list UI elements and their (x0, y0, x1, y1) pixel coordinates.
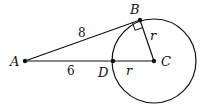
label-bc-radius: r (150, 28, 157, 43)
label-c: C (161, 54, 171, 69)
label-ab-length: 8 (78, 26, 86, 40)
label-ad-length: 6 (67, 64, 75, 78)
point-a (23, 59, 27, 63)
point-c (152, 59, 156, 63)
label-dc-radius: r (126, 63, 133, 78)
point-b (138, 18, 142, 22)
label-d: D (97, 65, 109, 80)
geometry-diagram: A B C D 8 6 r r (0, 0, 204, 108)
point-d (111, 59, 115, 63)
label-a: A (9, 54, 19, 69)
label-b: B (129, 2, 140, 17)
